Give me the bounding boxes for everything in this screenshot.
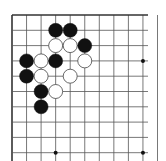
star-point <box>141 59 145 63</box>
white-stone <box>34 54 48 68</box>
black-stone <box>34 100 48 114</box>
black-stone <box>34 85 48 99</box>
black-stone <box>63 23 77 37</box>
board-grid <box>12 15 158 161</box>
white-stone <box>63 39 77 53</box>
white-stone <box>34 69 48 83</box>
star-point <box>54 151 58 155</box>
black-stone <box>20 54 34 68</box>
black-stone <box>49 23 63 37</box>
black-stone <box>49 54 63 68</box>
black-stone <box>20 69 34 83</box>
white-stone <box>49 39 63 53</box>
white-stone <box>78 54 92 68</box>
star-point <box>141 151 145 155</box>
white-stone <box>63 69 77 83</box>
white-stone <box>49 85 63 99</box>
go-board <box>0 0 166 161</box>
black-stone <box>78 39 92 53</box>
